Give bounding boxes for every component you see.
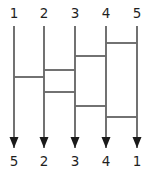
wiring-diagram-svg: 12345 52341: [0, 0, 150, 172]
bottom-label-group: 52341: [10, 153, 142, 169]
top-label-3: 3: [71, 5, 80, 21]
top-label-group: 12345: [10, 5, 142, 21]
bottom-label-2: 2: [40, 153, 49, 169]
top-label-1: 1: [10, 5, 19, 21]
bottom-label-3: 3: [71, 153, 80, 169]
wire-group: [14, 26, 137, 148]
arrowhead-group: [10, 137, 142, 148]
bottom-label-5: 1: [133, 153, 142, 169]
wire-arrowhead-2: [40, 137, 49, 148]
wire-arrowhead-4: [102, 137, 111, 148]
top-label-4: 4: [102, 5, 111, 21]
wire-arrowhead-3: [71, 137, 80, 148]
top-label-5: 5: [133, 5, 142, 21]
bottom-label-1: 5: [10, 153, 19, 169]
diagram-canvas: 12345 52341: [0, 0, 150, 172]
top-label-2: 2: [40, 5, 49, 21]
bottom-label-4: 4: [102, 153, 111, 169]
wire-arrowhead-1: [10, 137, 19, 148]
wire-arrowhead-5: [133, 137, 142, 148]
